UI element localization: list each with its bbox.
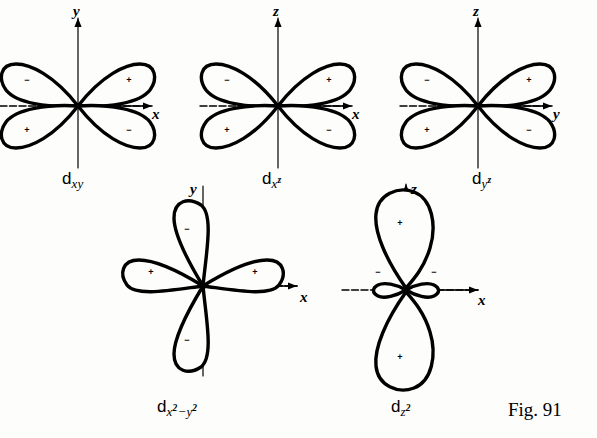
lobe-bottom [174,286,208,371]
sign-upper-right: + [526,75,531,85]
dx2y2-vertical-axis-label: y [190,182,197,197]
dxy-vertical-axis-label: y [73,4,80,19]
lobe-lower-left [401,106,478,148]
sign-bottom: + [397,352,402,362]
dz2-sup: 2 [406,403,411,413]
lobe-lower-left [201,106,278,148]
lobe-lower-right [478,106,555,148]
orbital-diagram-dx2y2: − + − + [125,180,355,380]
torus-lobe-left [374,284,407,298]
dxz-horizontal-axis-label: x [352,107,360,122]
lobe-lower-right [78,106,155,148]
lobe-upper-right [278,64,355,106]
sign-lower-left: + [24,125,29,135]
sign-left: + [148,267,153,277]
dx2y2-tail-sup: 2 [192,403,197,413]
sign-lower-right: − [326,125,331,135]
lobe-upper-right [478,64,555,106]
x-axis-arrow [343,102,352,109]
dyz-horizontal-axis-label: y [553,107,560,122]
lobe-bottom [376,292,433,390]
sign-upper-left: − [224,75,229,85]
sign-top: − [184,224,189,234]
orbital-diagram-dxy: − + + − [0,2,222,177]
x-axis-arrow [143,102,152,109]
lobe-upper-left [201,64,278,106]
dxy-svg: − + + − [0,2,222,177]
sign-top: + [397,218,402,228]
sign-upper-left: − [24,75,29,85]
dx2y2-horizontal-axis-label: x [300,290,308,305]
dx2y2-tail: −y [177,404,192,419]
lobe-upper-right [78,64,155,106]
z-axis-arrow [274,18,281,27]
sign-lower-right: − [526,125,531,135]
origin-dot [475,103,481,109]
dyz-vertical-axis-label: z [473,4,479,19]
lobe-upper-left [1,64,78,106]
x-axis-arrow [288,282,297,289]
origin-dot [200,283,206,289]
sign-upper-right: + [326,75,331,85]
x-axis-arrow [469,286,478,293]
sign-lower-right: − [126,125,131,135]
lobe-top [376,190,433,288]
orbital-label-dxy: dxy [62,170,83,190]
sign-upper-left: − [424,75,429,85]
dyz-svg: − + + − [392,2,597,177]
dz2-vertical-axis-label: z [411,182,417,197]
origin-dot [75,103,81,109]
dxz-svg: − + + − [192,2,422,177]
dx2y2-svg: − + − + [125,180,355,380]
sign-torus-right: − [431,267,436,277]
orbital-diagram-dz2: + + − − [338,180,538,380]
lobe-lower-left [1,106,78,148]
y-axis-arrow [74,18,81,27]
origin-dot [275,103,281,109]
dxz-vertical-axis-label: z [273,4,279,19]
orbital-label-dz2: dz2 [391,398,411,418]
orbital-diagram-dxz: − + + − [192,2,422,177]
y-axis-arrow [543,102,552,109]
lobe-lower-right [278,106,355,148]
sign-right: + [252,267,257,277]
dz2-horizontal-axis-label: x [478,293,486,308]
z-axis-arrow [474,18,481,27]
sign-upper-right: + [126,75,131,85]
figure-panel: − + + − y x dxy [0,0,597,438]
orbital-diagram-dyz: − + + − [392,2,597,177]
origin-dot [403,287,409,293]
dz2-svg: + + − − [338,180,538,380]
dxy-sub: xy [71,176,83,191]
sign-torus-left: − [375,267,380,277]
sign-lower-left: + [224,125,229,135]
dz2-sub: z2 [400,404,410,419]
orbital-label-dx2y2: dx2−y2 [157,398,197,418]
dxy-horizontal-axis-label: x [152,107,160,122]
lobe-right [203,260,283,292]
dx2y2-sub: x2−y2 [166,404,197,419]
figure-caption: Fig. 91 [508,399,562,421]
lobe-upper-left [401,64,478,106]
sign-bottom: − [184,335,189,345]
sign-lower-left: + [424,125,429,135]
